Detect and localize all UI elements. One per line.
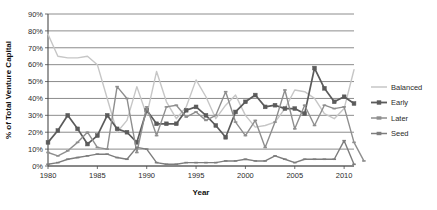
line-chart: 0%10%20%30%40%50%60%70%80%90%19801985199… (0, 0, 437, 210)
y-tick-label: 80% (28, 27, 43, 36)
y-tick-label: 30% (28, 111, 43, 120)
data-point-marker (46, 140, 50, 144)
data-point-marker (86, 142, 90, 146)
data-point-marker (125, 130, 129, 134)
x-tick-label: 1985 (89, 171, 106, 180)
y-tick-label: 70% (28, 44, 43, 53)
data-point-marker (322, 86, 326, 90)
data-point-marker (214, 124, 218, 128)
data-point-marker (76, 127, 80, 131)
x-tick-label: 1980 (40, 171, 57, 180)
x-axis-title: Year (193, 188, 210, 197)
data-point-marker (332, 100, 336, 104)
data-point-marker (234, 110, 238, 114)
data-point-marker (105, 113, 109, 117)
data-point-marker (155, 122, 159, 126)
data-point-marker (165, 122, 169, 126)
x-tick-label: 1990 (138, 171, 155, 180)
x-tick-label: 1995 (188, 171, 205, 180)
data-point-marker (303, 112, 307, 116)
x-tick-label: 2000 (237, 171, 254, 180)
legend-label-later: Later (391, 114, 409, 123)
data-point-marker (273, 103, 277, 107)
data-point-marker (263, 105, 267, 109)
data-point-marker (184, 108, 188, 112)
y-axis-title: % of Total Venture Capital (4, 41, 13, 139)
data-point-marker (253, 93, 257, 97)
y-tick-label: 40% (28, 94, 43, 103)
data-point-marker (293, 107, 297, 111)
data-point-marker (56, 129, 60, 133)
data-point-marker (95, 134, 99, 138)
y-tick-label: 60% (28, 60, 43, 69)
legend-label-early: Early (391, 98, 408, 107)
y-tick-label: 50% (28, 77, 43, 86)
series-line-balanced (48, 34, 354, 132)
data-point-marker (342, 95, 346, 99)
data-point-marker (174, 122, 178, 126)
legend-label-balanced: Balanced (391, 83, 422, 92)
legend-label-seed: Seed (391, 129, 409, 138)
x-tick-label: 2005 (286, 171, 303, 180)
data-point-marker (204, 113, 208, 117)
series-line-early (48, 68, 354, 144)
data-point-marker (283, 107, 287, 111)
y-tick-label: 90% (28, 10, 43, 19)
y-tick-label: 0% (32, 162, 43, 171)
data-point-marker (194, 105, 198, 109)
data-point-marker (313, 66, 317, 70)
data-point-marker (352, 102, 356, 106)
y-tick-label: 20% (28, 128, 43, 137)
y-tick-label: 10% (28, 145, 43, 154)
x-tick-label: 2010 (336, 171, 353, 180)
chart-figure: 0%10%20%30%40%50%60%70%80%90%19801985199… (0, 0, 437, 210)
data-point-marker (66, 113, 70, 117)
data-point-marker (115, 127, 119, 131)
legend-marker-early (377, 100, 381, 104)
data-point-marker (244, 100, 248, 104)
series-line-seed (48, 141, 354, 165)
data-point-marker (224, 135, 228, 139)
